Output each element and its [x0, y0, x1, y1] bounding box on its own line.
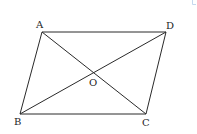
label-o: O [89, 77, 97, 88]
side-dc [146, 32, 166, 114]
side-ab [20, 32, 42, 114]
diagonal-bd [20, 32, 166, 114]
label-a: A [35, 19, 44, 30]
corner-mark-icon [193, 0, 197, 5]
label-c: C [142, 117, 150, 128]
label-d: D [166, 20, 174, 31]
label-b: B [14, 116, 21, 127]
parallelogram-diagram: A D B C O [0, 0, 196, 134]
